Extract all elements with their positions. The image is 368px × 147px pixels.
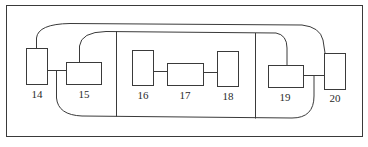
block-14: 14 xyxy=(27,49,48,101)
block-17: 17 xyxy=(168,64,204,102)
block-16-label: 16 xyxy=(138,89,150,101)
block-18: 18 xyxy=(218,52,239,103)
block-diagram: 14 15 16 17 18 19 20 xyxy=(0,0,368,147)
block-14-label: 14 xyxy=(32,88,44,100)
block-16: 16 xyxy=(133,51,154,102)
block-20-label: 20 xyxy=(330,92,342,104)
block-18-label: 18 xyxy=(223,90,235,102)
block-15-label: 15 xyxy=(79,88,91,100)
block-17-label: 17 xyxy=(180,89,192,101)
block-19-label: 19 xyxy=(280,91,292,103)
block-20: 20 xyxy=(325,54,346,105)
block-15: 15 xyxy=(67,63,102,101)
block-19: 19 xyxy=(269,66,304,104)
